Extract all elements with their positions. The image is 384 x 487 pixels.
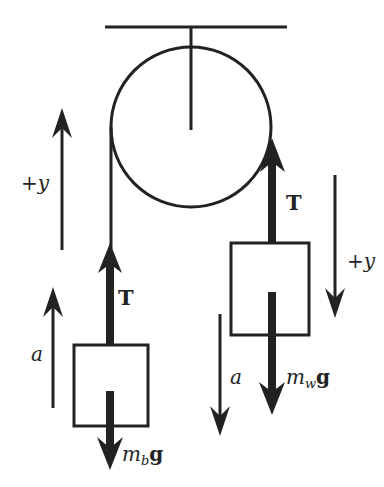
right-positive-y-label: +y — [347, 249, 376, 273]
right-weight-label: mwg — [286, 365, 330, 391]
left-acceleration-label: a — [31, 342, 43, 366]
atwood-machine-diagram: T mbg +y a T mwg +y a — [0, 0, 384, 487]
left-weight-label: mbg — [122, 442, 163, 468]
right-tension-label: T — [286, 190, 302, 215]
left-positive-y-label: +y — [21, 171, 50, 195]
right-acceleration-label: a — [230, 365, 242, 389]
left-tension-label: T — [118, 285, 134, 310]
